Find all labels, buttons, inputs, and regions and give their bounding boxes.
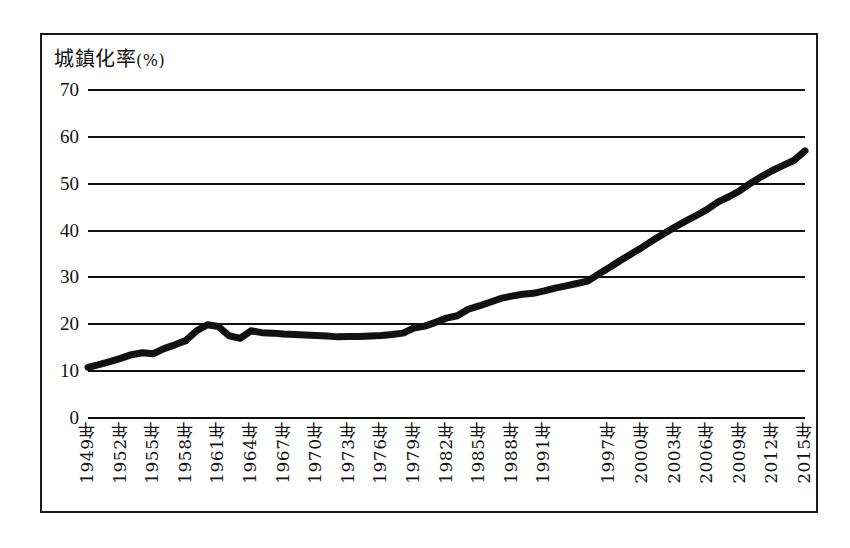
figure-frame: 城鎮化率(%) 010203040506070 1949年1952年1955年1… <box>40 33 818 513</box>
y-axis-tick-label: 70 <box>60 80 79 99</box>
plot-area: 010203040506070 <box>88 89 805 417</box>
x-axis-tick-label: 2012年 <box>763 421 780 484</box>
x-axis-tick-label: 1949年 <box>79 421 96 484</box>
x-axis-tick-label: 1964年 <box>242 421 259 484</box>
x-axis-tick-label: 1955年 <box>144 421 161 484</box>
x-axis-tick-label: 1991年 <box>535 421 552 484</box>
chart-title-text: 城鎮化率 <box>54 47 136 71</box>
x-axis-tick-label: 1961年 <box>209 421 226 484</box>
y-axis-tick-label: 20 <box>60 314 79 333</box>
x-axis-tick-label: 2003年 <box>666 421 683 484</box>
x-axis-tick-label: 1985年 <box>470 421 487 484</box>
x-axis-tick-label: 2000年 <box>633 421 650 484</box>
x-axis-tick-label: 1988年 <box>503 421 520 484</box>
x-axis-tick-label: 1958年 <box>177 421 194 484</box>
x-axis-tick-label: 1973年 <box>340 421 357 484</box>
x-axis-tick-labels: 1949年1952年1955年1958年1961年1964年1967年1970年… <box>88 421 805 513</box>
x-axis-tick-label: 1997年 <box>600 421 617 484</box>
x-axis-tick-label: 1952年 <box>112 421 129 484</box>
x-axis-tick-label: 2006年 <box>698 421 715 484</box>
x-axis-tick-label: 1982年 <box>438 421 455 484</box>
y-axis-tick-label: 60 <box>60 126 79 145</box>
x-axis-tick-label: 2015年 <box>796 421 813 484</box>
y-axis-tick-label: 10 <box>60 361 79 380</box>
y-axis-tick-label: 50 <box>60 173 79 192</box>
gridline-0 <box>88 417 805 419</box>
x-axis-tick-label: 1967年 <box>275 421 292 484</box>
x-axis-tick-label: 1979年 <box>405 421 422 484</box>
y-axis-tick-label: 40 <box>60 220 79 239</box>
series-line-urbanization-rate <box>88 89 805 417</box>
y-axis-tick-label: 30 <box>60 267 79 286</box>
x-axis-tick-label: 2009年 <box>731 421 748 484</box>
x-axis-tick-label: 1970年 <box>307 421 324 484</box>
chart-title-unit: (%) <box>136 51 165 70</box>
x-axis-tick-label: 1976年 <box>372 421 389 484</box>
page-title: 城鎮化率(%) <box>54 43 165 72</box>
